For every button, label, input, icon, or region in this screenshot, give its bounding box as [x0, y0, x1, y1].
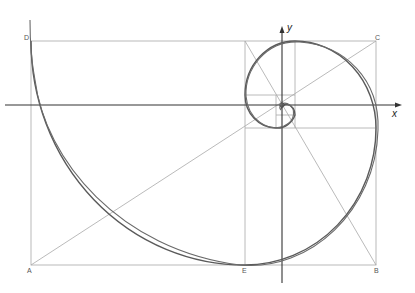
point-label-d: D — [24, 34, 29, 41]
diagonal-eb — [245, 41, 376, 265]
point-label-e: E — [242, 267, 247, 274]
logarithmic-spiral — [30, 20, 378, 266]
x-axis-label: x — [392, 108, 397, 119]
point-label-b: B — [374, 267, 379, 274]
point-label-c: C — [375, 34, 380, 41]
y-axis-arrow-icon — [280, 26, 285, 33]
diagonal-ac — [31, 41, 376, 265]
point-label-a: A — [27, 267, 32, 274]
y-axis-label: y — [287, 22, 292, 33]
golden-spiral-diagram — [0, 0, 415, 293]
x-axis-arrow-icon — [395, 103, 402, 108]
